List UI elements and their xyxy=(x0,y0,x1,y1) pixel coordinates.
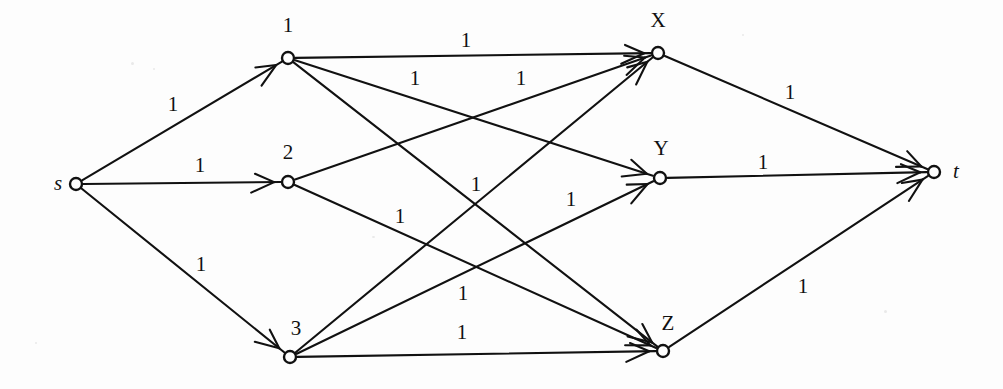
node-n2 xyxy=(282,176,294,188)
edge-n2-to-X xyxy=(295,55,651,179)
edge-capacity-label: 1 xyxy=(458,281,469,305)
edge-n3-to-Z xyxy=(297,351,655,357)
node-label-n3: 3 xyxy=(291,316,302,340)
node-X xyxy=(652,47,664,59)
node-Y xyxy=(654,172,666,184)
arrowheads-layer xyxy=(251,45,922,362)
edge-capacity-label: 1 xyxy=(410,66,421,90)
flow-network-graph: s123XYZt 11111111111111 xyxy=(0,0,1003,389)
edge-capacity-label: 1 xyxy=(457,320,468,344)
edge-capacity-label: 1 xyxy=(566,187,577,211)
edge-capacity-label: 1 xyxy=(471,172,482,196)
node-n3 xyxy=(284,351,296,363)
node-label-X: X xyxy=(650,8,665,32)
edge-s-to-n3 xyxy=(82,189,284,353)
edge-n1-to-X xyxy=(295,53,650,58)
edge-capacity-label: 1 xyxy=(395,204,406,228)
arrowhead-icon xyxy=(622,160,647,177)
edge-X-to-t xyxy=(665,56,927,169)
edge-capacity-label: 1 xyxy=(785,80,796,104)
node-label-Y: Y xyxy=(653,136,668,160)
nodes-layer xyxy=(70,47,940,363)
edge-n3-to-X xyxy=(296,58,652,352)
node-s xyxy=(70,178,82,190)
node-label-t: t xyxy=(953,159,960,183)
edge-Z-to-t xyxy=(669,176,927,347)
edge-Y-to-t xyxy=(667,172,926,178)
node-label-Z: Z xyxy=(662,311,675,335)
node-label-n1: 1 xyxy=(283,13,294,37)
node-n1 xyxy=(282,52,294,64)
diagram-page: s123XYZt 11111111111111 xyxy=(0,0,1003,389)
node-t xyxy=(928,166,940,178)
node-label-s: s xyxy=(54,171,62,195)
edge-capacity-label: 1 xyxy=(195,153,206,177)
edge-s-to-n2 xyxy=(83,182,280,184)
edge-n3-to-Y xyxy=(297,181,653,353)
edge-capacity-label: 1 xyxy=(516,66,527,90)
edge-capacity-label: 1 xyxy=(758,150,769,174)
edge-capacity-label: 1 xyxy=(168,92,179,116)
edge-capacity-label: 1 xyxy=(461,28,472,52)
edges-layer xyxy=(82,53,928,357)
edge-s-to-n1 xyxy=(82,62,281,180)
node-label-n2: 2 xyxy=(283,140,294,164)
edge-capacity-label: 1 xyxy=(196,252,207,276)
node-Z xyxy=(657,345,669,357)
edge-capacity-label: 1 xyxy=(798,274,809,298)
